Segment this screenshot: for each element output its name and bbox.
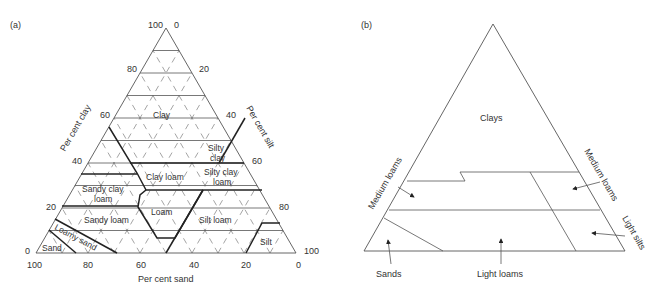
svg-text:Silty clay: Silty clay	[204, 167, 238, 177]
svg-text:20: 20	[199, 64, 209, 74]
svg-text:Clay: Clay	[153, 110, 171, 120]
label-medium-loams-left: Medium loams	[366, 155, 404, 211]
svg-text:80: 80	[127, 64, 137, 74]
svg-text:Sandy loam: Sandy loam	[84, 215, 129, 225]
panel-b-simplified-triangle: (b) Clays Medium loams Medium loams Ligh…	[361, 20, 648, 279]
svg-text:80: 80	[279, 202, 289, 212]
svg-text:Silty: Silty	[208, 143, 225, 153]
arrows	[388, 182, 625, 264]
panel-b-label: (b)	[361, 20, 372, 30]
svg-text:Silt loam: Silt loam	[199, 215, 232, 225]
svg-text:loam: loam	[94, 194, 112, 204]
svg-text:100: 100	[148, 20, 163, 30]
svg-text:loam: loam	[213, 177, 231, 187]
axis-title-sand: Per cent sand	[138, 274, 194, 284]
svg-text:0: 0	[174, 20, 179, 30]
svg-text:Sand: Sand	[42, 243, 62, 253]
svg-text:20: 20	[241, 260, 251, 270]
panel-a-texture-triangle: (a)	[10, 20, 319, 284]
arrow-icon	[592, 233, 625, 236]
svg-text:Silt: Silt	[260, 237, 272, 247]
svg-text:20: 20	[46, 202, 56, 212]
label-light-loams: Light loams	[477, 269, 524, 279]
axis-title-silt: Per cent silt	[244, 104, 276, 150]
triangle-outline-b	[364, 24, 625, 251]
svg-text:60: 60	[252, 156, 262, 166]
svg-text:Loam: Loam	[151, 207, 172, 217]
svg-text:60: 60	[100, 110, 110, 120]
svg-text:0: 0	[296, 260, 301, 270]
arrow-icon	[573, 182, 600, 189]
svg-text:40: 40	[72, 156, 82, 166]
svg-text:Sandy clay: Sandy clay	[82, 184, 124, 194]
svg-text:100: 100	[27, 260, 42, 270]
label-sands: Sands	[376, 269, 402, 279]
arrow-icon	[388, 240, 391, 264]
svg-text:60: 60	[136, 260, 146, 270]
svg-text:100: 100	[304, 246, 319, 256]
svg-text:0: 0	[25, 246, 30, 256]
label-medium-loams-right: Medium loams	[582, 147, 620, 203]
label-clays: Clays	[480, 113, 503, 123]
axis-title-clay: Per cent clay	[58, 103, 93, 153]
arrow-icon	[398, 187, 414, 197]
panel-a-label: (a)	[10, 20, 21, 30]
svg-text:40: 40	[226, 110, 236, 120]
silt-ticks: 0 20 40 60 80 100	[174, 20, 319, 256]
svg-text:clay: clay	[210, 153, 226, 163]
svg-text:Clay loam: Clay loam	[146, 172, 184, 182]
sand-ticks: 100 80 60 40 20 0	[27, 260, 301, 270]
soil-texture-figure: (a)	[0, 0, 669, 291]
svg-text:80: 80	[83, 260, 93, 270]
svg-text:40: 40	[189, 260, 199, 270]
label-light-silts: Light silts	[620, 214, 648, 252]
